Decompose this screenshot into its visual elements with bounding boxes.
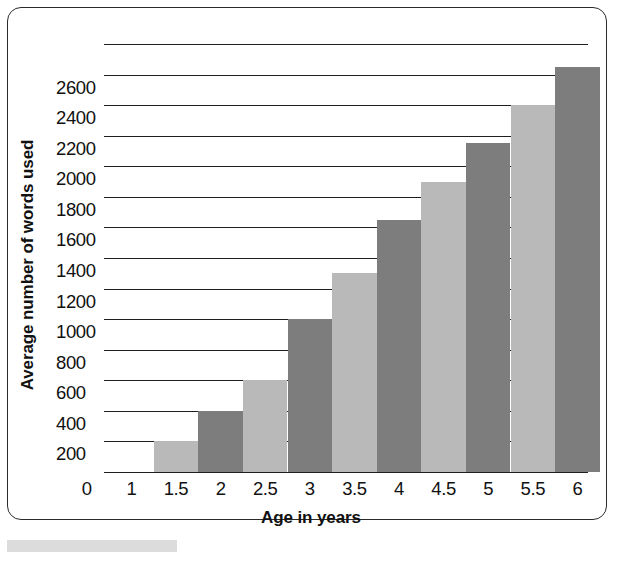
x-tick-label-5: 5 xyxy=(483,478,493,500)
bar-3.5 xyxy=(332,273,377,472)
x-tick-label-1: 1 xyxy=(126,478,136,500)
x-tick-label-4: 4 xyxy=(394,478,404,500)
x-tick-label-1.5: 1.5 xyxy=(164,478,189,500)
bar-5.5 xyxy=(511,105,556,472)
y-tick-label-2000: 2000 xyxy=(56,168,96,190)
bar-4 xyxy=(377,220,422,472)
x-tick-label-5.5: 5.5 xyxy=(521,478,546,500)
y-tick-label-1200: 1200 xyxy=(56,291,96,313)
y-tick-label-1400: 1400 xyxy=(56,260,96,282)
bar-2.5 xyxy=(243,380,288,472)
x-tick-label-3.5: 3.5 xyxy=(342,478,367,500)
gridline-2600 xyxy=(104,75,588,76)
y-tick-label-2400: 2400 xyxy=(56,107,96,129)
y-tick-label-200: 200 xyxy=(56,443,86,465)
y-tick-label-400: 400 xyxy=(56,413,86,435)
caption-strip xyxy=(7,540,177,552)
bar-1.5 xyxy=(154,441,199,472)
x-tick-label-2: 2 xyxy=(216,478,226,500)
gridline-2800 xyxy=(104,44,588,45)
x-tick-label-0: 0 xyxy=(82,478,92,500)
y-tick-label-800: 800 xyxy=(56,352,86,374)
x-axis-tick-labels: 011.522.533.544.555.56 xyxy=(60,478,600,506)
bar-3 xyxy=(288,319,333,472)
plot-area xyxy=(104,44,588,472)
x-tick-label-4.5: 4.5 xyxy=(431,478,456,500)
bar-2 xyxy=(198,411,243,472)
x-axis-title: Age in years xyxy=(0,508,622,528)
y-axis-tick-labels: 2004006008001000120014001600180020002200… xyxy=(48,44,104,484)
bar-6 xyxy=(555,67,600,472)
y-tick-label-1600: 1600 xyxy=(56,229,96,251)
bar-4.5 xyxy=(421,182,466,472)
x-tick-label-6: 6 xyxy=(572,478,582,500)
gridline-0 xyxy=(104,472,588,473)
y-tick-label-1000: 1000 xyxy=(56,321,96,343)
y-axis-title: Average number of words used xyxy=(18,115,38,415)
y-tick-label-600: 600 xyxy=(56,382,86,404)
y-tick-label-1800: 1800 xyxy=(56,199,96,221)
bar-5 xyxy=(466,143,511,472)
y-tick-label-2600: 2600 xyxy=(56,77,96,99)
x-tick-label-3: 3 xyxy=(305,478,315,500)
x-tick-label-2.5: 2.5 xyxy=(253,478,278,500)
y-tick-label-2200: 2200 xyxy=(56,138,96,160)
